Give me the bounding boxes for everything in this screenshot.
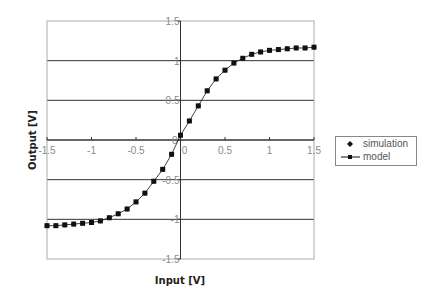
x-tick-label: 1 xyxy=(267,145,273,156)
y-tick-label: -1.5 xyxy=(162,254,180,265)
y-tick-label: 1.5 xyxy=(166,16,180,27)
x-tick-label: -0.5 xyxy=(127,145,145,156)
x-tick-label: 0 xyxy=(182,145,188,156)
legend-label-model: model xyxy=(363,150,390,163)
y-tick-label: -0.5 xyxy=(162,175,180,186)
y-tick-label: 0.5 xyxy=(166,95,180,106)
y-tick-label: 1 xyxy=(174,56,180,67)
x-axis-title: Input [V] xyxy=(155,275,205,286)
y-tick-label: 0 xyxy=(172,135,178,146)
legend-item-simulation: simulation xyxy=(336,137,416,150)
legend-label-simulation: simulation xyxy=(363,137,408,150)
x-tick-label: 1.5 xyxy=(307,145,321,156)
diamond-marker-icon xyxy=(340,137,360,150)
line-square-marker-icon xyxy=(340,150,360,163)
y-axis-title: Output [V] xyxy=(27,110,38,170)
x-tick-label: 0.5 xyxy=(218,145,232,156)
x-tick-label: -1.5 xyxy=(38,145,56,156)
y-tick-label: -1 xyxy=(171,214,180,225)
legend-item-model: model xyxy=(336,150,416,163)
legend: simulation model xyxy=(335,136,417,166)
x-tick-label: -1 xyxy=(87,145,96,156)
